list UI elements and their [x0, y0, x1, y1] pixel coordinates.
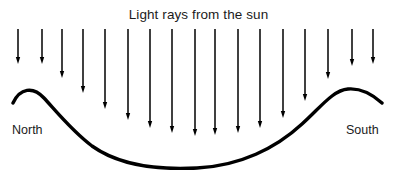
light-ray-arrowhead	[236, 126, 240, 133]
light-ray-arrowhead	[60, 71, 64, 78]
light-ray-arrows-group	[16, 29, 375, 136]
north-label: North	[12, 124, 43, 137]
light-ray-arrowhead	[258, 121, 262, 128]
light-ray-arrowhead	[303, 94, 307, 101]
light-ray-arrowhead	[16, 57, 20, 64]
light-ray-arrowhead	[170, 126, 174, 133]
light-ray-arrowhead	[40, 57, 44, 64]
light-ray-arrowhead	[281, 111, 285, 118]
light-ray-arrowhead	[193, 129, 197, 136]
light-ray-arrowhead	[103, 102, 107, 109]
south-label: South	[346, 124, 379, 137]
diagram-canvas	[0, 0, 397, 170]
light-ray-arrowhead	[148, 121, 152, 128]
light-ray-arrowhead	[126, 113, 130, 120]
light-ray-arrowhead	[81, 86, 85, 93]
diagram-title: Light rays from the sun	[0, 8, 397, 22]
earth-surface-curve	[13, 89, 382, 169]
light-ray-arrowhead	[213, 128, 217, 135]
light-ray-arrowhead	[371, 57, 375, 64]
light-ray-arrowhead	[326, 72, 330, 79]
light-ray-arrowhead	[350, 59, 354, 66]
light-rays-diagram: Light rays from the sun North South	[0, 0, 397, 170]
